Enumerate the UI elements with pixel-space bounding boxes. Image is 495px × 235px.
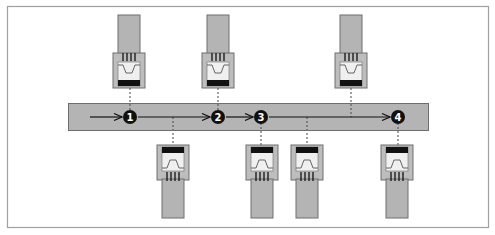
connector-plug-icon-top-2 <box>202 15 234 88</box>
marker-3-label: 3 <box>258 112 265 123</box>
marker-3: 3 <box>254 110 268 124</box>
connector-plug-icon-top-1 <box>113 15 145 88</box>
connector-plug-icon-bottom-2 <box>246 145 278 218</box>
marker-1: 1 <box>123 110 137 124</box>
connector-plug-icon-bottom-3 <box>291 145 323 218</box>
connector-plug-icon-top-3 <box>335 15 367 88</box>
marker-4: 4 <box>391 110 405 124</box>
marker-1-label: 1 <box>127 112 134 123</box>
marker-2-label: 2 <box>215 112 222 123</box>
connector-plug-icon-bottom-1 <box>157 145 189 218</box>
marker-4-label: 4 <box>395 112 402 123</box>
connector-plug-icon-bottom-4 <box>381 145 413 218</box>
bus-topology-diagram: 1 2 3 4 <box>0 0 495 235</box>
marker-2: 2 <box>211 110 225 124</box>
